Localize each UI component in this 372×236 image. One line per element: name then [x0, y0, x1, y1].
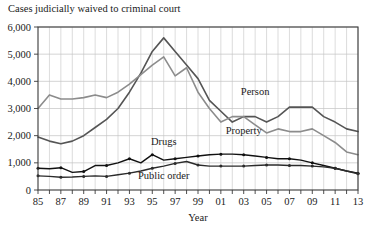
x-axis-tick-label: 97	[170, 196, 181, 207]
x-axis-tick-label: 93	[124, 196, 135, 207]
series-marker-drugs	[174, 157, 177, 160]
series-marker-drugs	[219, 153, 222, 156]
x-axis-tick-label: 05	[261, 196, 272, 207]
series-annotation-property: Property	[226, 125, 263, 136]
x-axis-tick-label: 99	[193, 196, 204, 207]
chart-container: Cases judicially waived to criminal cour…	[0, 0, 372, 236]
series-marker-public-order	[334, 167, 337, 170]
series-marker-drugs	[105, 164, 108, 167]
series-marker-public-order	[219, 165, 222, 168]
y-axis-tick-label: 1,000	[7, 157, 31, 168]
series-marker-drugs	[242, 153, 245, 156]
series-annotation-drugs: Drugs	[151, 136, 177, 147]
y-axis-tick-label: 3,000	[7, 103, 31, 114]
series-marker-drugs	[82, 170, 85, 173]
series-marker-public-order	[242, 165, 245, 168]
series-marker-public-order	[265, 164, 268, 167]
x-axis-tick-label: 01	[216, 196, 227, 207]
series-marker-drugs	[151, 153, 154, 156]
series-marker-public-order	[288, 164, 291, 167]
x-axis-tick-label: 87	[56, 196, 67, 207]
series-marker-drugs	[128, 157, 131, 160]
x-axis-tick-label: 11	[330, 196, 340, 207]
x-axis-tick-label: 95	[147, 196, 158, 207]
line-chart-plot: 01,0002,0003,0004,0005,0006,000858789919…	[0, 0, 372, 236]
series-annotation-public-order: Public order	[138, 170, 190, 181]
series-marker-drugs	[288, 157, 291, 160]
series-marker-public-order	[59, 176, 62, 179]
y-axis-tick-label: 2,000	[7, 130, 31, 141]
series-marker-drugs	[59, 166, 62, 169]
series-marker-public-order	[311, 165, 314, 168]
y-axis-tick-label: 5,000	[7, 49, 31, 60]
axis-ticks-group	[34, 27, 358, 194]
series-marker-public-order	[197, 164, 200, 167]
y-axis-tick-label: 4,000	[7, 76, 31, 87]
x-axis-tick-label: 85	[33, 196, 44, 207]
series-marker-drugs	[311, 161, 314, 164]
x-axis-title: Year	[188, 212, 208, 223]
y-axis-tick-label: 6,000	[7, 22, 31, 33]
series-marker-public-order	[128, 172, 131, 175]
x-axis-tick-label: 03	[238, 196, 249, 207]
series-marker-public-order	[105, 175, 108, 178]
series-marker-public-order	[174, 162, 177, 165]
x-axis-tick-label: 91	[101, 196, 112, 207]
series-marker-drugs	[197, 155, 200, 158]
y-axis-tick-label: 0	[26, 185, 31, 196]
x-axis-tick-label: 13	[353, 196, 364, 207]
x-axis-tick-label: 89	[78, 196, 89, 207]
series-marker-public-order	[82, 175, 85, 178]
x-axis-tick-label: 07	[284, 196, 295, 207]
series-marker-drugs	[265, 156, 268, 159]
x-axis-tick-label: 09	[307, 196, 318, 207]
series-annotation-person: Person	[241, 86, 270, 97]
